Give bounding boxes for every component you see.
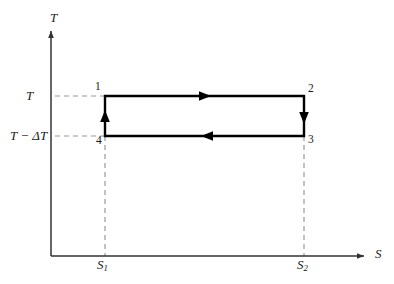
cycle-point-label-1: 1 (95, 81, 101, 93)
carnot-cycle-path (105, 96, 304, 136)
x-tick-S2-subscript: 2 (304, 263, 308, 273)
process-direction-arrows (100, 91, 309, 141)
y-tick-label-T-minus-delta-T: T − ΔT (10, 129, 47, 142)
ts-diagram-figure: T S T T − ΔT S1 S2 1 2 3 4 (0, 0, 394, 284)
cycle-point-label-3: 3 (308, 134, 314, 146)
arrow-4-to-1-up (100, 110, 110, 122)
x-tick-S1-subscript: 1 (104, 263, 108, 273)
temperature-axis-label: T (50, 11, 57, 24)
guide-lines (55, 96, 304, 256)
x-tick-label-S2: S2 (297, 258, 308, 273)
cycle-point-label-4: 4 (96, 135, 102, 147)
arrow-1-to-2-right (199, 91, 211, 101)
y-tick-label-T: T (26, 89, 33, 102)
cycle-point-label-2: 2 (308, 83, 314, 95)
entropy-axis-label: S (375, 247, 382, 260)
arrow-3-to-4-left (201, 131, 213, 141)
x-tick-label-S1: S1 (97, 258, 108, 273)
arrow-2-to-3-down (299, 112, 309, 124)
diagram-canvas (0, 0, 394, 284)
